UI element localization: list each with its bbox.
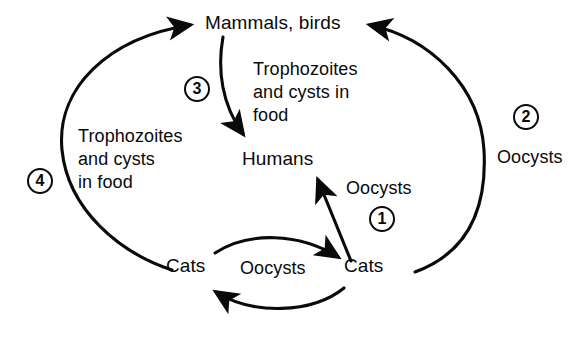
node-cats-left: Cats — [166, 255, 205, 277]
edge-label-trophozoites-to-mammals-line2: and cysts — [78, 149, 155, 170]
node-humans: Humans — [242, 148, 313, 170]
edge-label-trophozoites-to-humans-line2: and cysts in — [253, 82, 349, 103]
edge-label-trophozoites-to-mammals-line1: Trophozoites — [78, 126, 183, 147]
step-marker-2: 2 — [513, 104, 539, 130]
arrow-cats-left-to-mammals — [62, 25, 190, 270]
edge-label-trophozoites-to-mammals-line3: in food — [78, 172, 133, 193]
step-marker-3: 3 — [184, 76, 210, 102]
arrow-cats-right-to-mammals — [370, 25, 484, 272]
edge-label-oocysts-to-mammals: Oocysts — [497, 147, 563, 168]
step-marker-1: 1 — [369, 206, 395, 232]
edge-label-trophozoites-to-humans-line1: Trophozoites — [253, 59, 358, 80]
arrow-cats-right-to-cats-left — [216, 288, 344, 308]
edge-label-oocysts-to-humans: Oocysts — [346, 178, 412, 199]
step-marker-4: 4 — [27, 168, 53, 194]
edge-label-oocysts-cats-cycle: Oocysts — [240, 258, 306, 279]
transmission-cycle-diagram: Mammals, birds Humans Cats Cats Trophozo… — [0, 0, 581, 337]
arrow-cats-left-to-cats-right — [215, 238, 338, 257]
arrow-mammals-to-humans — [221, 37, 243, 134]
edge-label-trophozoites-to-humans-line3: food — [253, 105, 288, 126]
node-cats-right: Cats — [344, 255, 383, 277]
node-mammals-birds: Mammals, birds — [205, 12, 340, 34]
